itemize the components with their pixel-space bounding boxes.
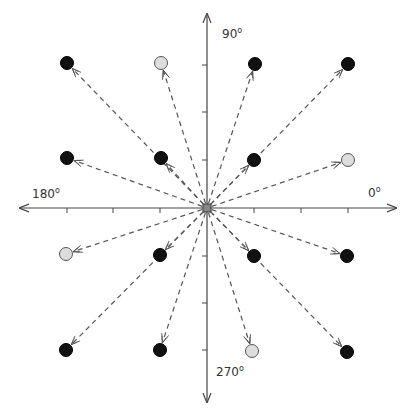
point: [341, 250, 354, 263]
vector-arrow: [210, 212, 341, 347]
point: [154, 249, 167, 262]
diagram-canvas: [0, 0, 408, 414]
vector-arrow: [71, 212, 203, 345]
point-highlighted: [342, 154, 355, 167]
origin-marker: [203, 204, 211, 212]
axis-label-90: 90o: [222, 26, 242, 41]
vector-arrow: [209, 213, 250, 344]
axis-label-0: 0o: [368, 185, 381, 200]
point: [248, 154, 261, 167]
constellation-diagram: 0o90o180o270o: [0, 0, 408, 414]
vector-arrow: [73, 210, 202, 252]
point-highlighted: [246, 345, 259, 358]
point: [342, 58, 355, 71]
vector-arrow: [72, 68, 203, 204]
point: [61, 57, 74, 70]
point: [341, 346, 354, 359]
point: [60, 344, 73, 357]
point: [248, 250, 261, 263]
axis-label-270: 270o: [216, 364, 244, 379]
axis-label-180: 180o: [32, 186, 60, 201]
vector-arrow: [212, 210, 340, 254]
point: [155, 152, 168, 165]
vector-arrow: [212, 162, 341, 206]
vector-arrow: [162, 213, 205, 343]
point: [249, 58, 262, 71]
point-highlighted: [60, 248, 73, 261]
point: [154, 344, 167, 357]
point-highlighted: [155, 57, 168, 70]
vector-arrow: [166, 164, 204, 205]
point: [61, 152, 74, 165]
